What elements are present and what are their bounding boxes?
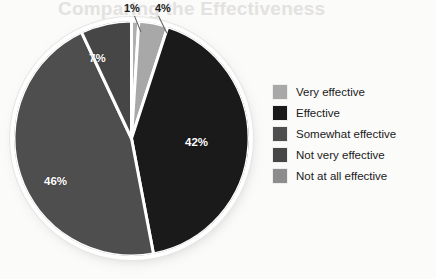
legend-item-label: Somewhat effective bbox=[296, 128, 396, 140]
pie-chart-screenshot: Comparing the Effectiveness 1% 4% 42% 46… bbox=[0, 0, 436, 279]
slice-value-label-somewhat-effective: 46% bbox=[44, 175, 67, 187]
legend-color-swatch bbox=[273, 169, 287, 183]
legend-item[interactable]: Not at all effective bbox=[273, 166, 396, 186]
legend-color-swatch bbox=[273, 106, 287, 120]
slice-value-label-not-at-all-effective: 1% bbox=[124, 2, 140, 14]
legend-item-label: Very effective bbox=[296, 86, 365, 98]
legend-item-label: Effective bbox=[296, 107, 340, 119]
slice-value-label-effective: 42% bbox=[185, 136, 208, 148]
legend-item-label: Not very effective bbox=[296, 149, 385, 161]
pie-slices bbox=[14, 21, 249, 256]
legend-item[interactable]: Somewhat effective bbox=[273, 124, 396, 144]
slice-value-label-very-effective: 4% bbox=[155, 2, 171, 14]
pie-slices-svg bbox=[14, 21, 249, 256]
legend-item-label: Not at all effective bbox=[296, 170, 387, 182]
legend-color-swatch bbox=[273, 127, 287, 141]
legend-item[interactable]: Not very effective bbox=[273, 145, 396, 165]
legend-item[interactable]: Very effective bbox=[273, 82, 396, 102]
legend-color-swatch bbox=[273, 148, 287, 162]
chart-legend: Very effectiveEffectiveSomewhat effectiv… bbox=[273, 82, 396, 187]
pie-chart bbox=[10, 17, 257, 264]
legend-item[interactable]: Effective bbox=[273, 103, 396, 123]
slice-value-label-not-very-effective: 7% bbox=[89, 52, 106, 64]
legend-color-swatch bbox=[273, 85, 287, 99]
